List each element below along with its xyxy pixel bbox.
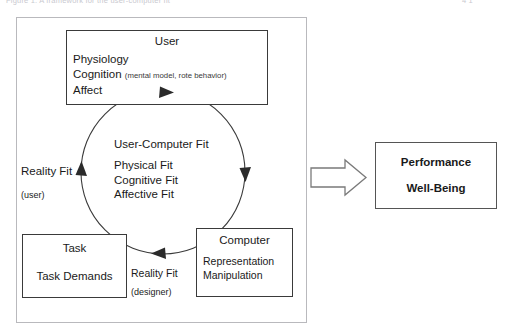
figure-caption-strip: Figure 1. A framework for the user-compu… (0, 0, 509, 12)
task-box: Task Task Demands (22, 234, 127, 298)
reality-fit-user-qualifier: (user) (21, 190, 72, 200)
figure-root: Figure 1. A framework for the user-compu… (0, 0, 509, 330)
user-box-title: User (67, 34, 267, 49)
fit-heading: User-Computer Fit (114, 138, 209, 150)
user-computer-fit-text: User-Computer Fit Physical Fit Cognitive… (114, 138, 209, 202)
user-line-physiology: Physiology (73, 52, 267, 67)
task-box-title: Task (23, 241, 126, 256)
reality-fit-designer-label: Reality Fit (designer) (131, 267, 178, 297)
fit-item-cognitive: Cognitive Fit (114, 173, 209, 188)
computer-box-title: Computer (197, 233, 292, 248)
computer-line-representation: Representation (203, 254, 292, 268)
user-line-affect: Affect (73, 83, 267, 98)
figure-caption-text: Figure 1. A framework for the user-compu… (6, 0, 170, 7)
reality-fit-user-label: Reality Fit (user) (21, 165, 72, 200)
task-box-content: Task Demands (23, 270, 126, 282)
computer-line-manipulation: Manipulation (203, 268, 292, 282)
outcome-performance: Performance (376, 156, 496, 168)
figure-caption-page-number: 4 1 (462, 0, 473, 7)
outcome-box: Performance Well-Being (375, 142, 497, 209)
outcome-well-being: Well-Being (376, 182, 496, 194)
reality-fit-user-main: Reality Fit (21, 165, 72, 177)
user-line-cognition-label: Cognition (73, 68, 122, 80)
reality-fit-designer-main: Reality Fit (131, 267, 178, 279)
fit-item-physical: Physical Fit (114, 158, 209, 173)
fit-item-affective: Affective Fit (114, 187, 209, 202)
block-arrow-right-icon (311, 160, 366, 195)
user-box: User Physiology Cognition (mental model,… (66, 30, 268, 105)
computer-box-lines: Representation Manipulation (197, 254, 292, 282)
reality-fit-designer-qualifier: (designer) (131, 287, 178, 297)
user-box-lines: Physiology Cognition (mental model, rote… (67, 52, 267, 98)
computer-box: Computer Representation Manipulation (196, 228, 293, 297)
user-line-cognition: Cognition (mental model, rote behavior) (73, 67, 267, 84)
user-cognition-note: (mental model, rote behavior) (125, 71, 227, 80)
